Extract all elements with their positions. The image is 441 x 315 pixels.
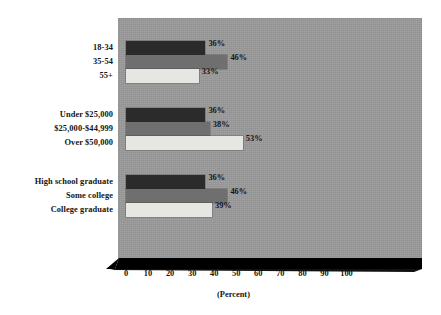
category-label: 35-54 <box>0 57 113 67</box>
bar-value-label: 39% <box>215 199 232 213</box>
bar <box>126 136 243 150</box>
category-label: 55+ <box>0 71 113 81</box>
bar-value-label: 46% <box>230 185 247 199</box>
x-axis-title: (Percent) <box>0 290 441 299</box>
category-label: College graduate <box>0 205 113 215</box>
x-tick-label: 40 <box>210 268 218 280</box>
category-label-column: 18-3435-5455+Under $25,000$25,000-$44,99… <box>0 18 113 262</box>
x-axis-title-text: (Percent) <box>217 290 250 299</box>
bar <box>126 122 210 136</box>
x-tick-label: 60 <box>254 268 262 280</box>
x-tick-label: 0 <box>124 268 128 280</box>
bar-value-label: 36% <box>208 171 225 185</box>
bar <box>126 108 205 122</box>
bar-value-label: 46% <box>230 51 247 65</box>
bar <box>126 189 227 203</box>
category-label: $25,000-$44,999 <box>0 124 113 134</box>
category-label: High school graduate <box>0 177 113 187</box>
x-tick-label: 30 <box>188 268 196 280</box>
x-tick-label: 100 <box>340 268 353 280</box>
x-tick-label: 10 <box>144 268 152 280</box>
bar <box>126 69 199 83</box>
category-label: Under $25,000 <box>0 110 113 120</box>
category-label: Some college <box>0 191 113 201</box>
bar <box>126 175 205 189</box>
chart-figure: 36%46%33%36%38%53%36%46%39% 18-3435-5455… <box>0 0 441 315</box>
category-label: Over $50,000 <box>0 138 113 148</box>
bar-value-label: 53% <box>246 132 263 146</box>
x-tick-label: 80 <box>298 268 306 280</box>
x-tick-label: 70 <box>276 268 284 280</box>
bar <box>126 203 212 217</box>
bar-value-label: 38% <box>213 118 230 132</box>
bars-layer: 36%46%33%36%38%53%36%46%39% <box>118 18 422 262</box>
bar-value-label: 33% <box>202 65 219 79</box>
x-tick-label: 20 <box>166 268 174 280</box>
bar-value-label: 36% <box>208 104 225 118</box>
bar <box>126 41 205 55</box>
x-tick-label: 90 <box>320 268 328 280</box>
plot-panel: 36%46%33%36%38%53%36%46%39% <box>118 18 422 262</box>
bar-value-label: 36% <box>208 37 225 51</box>
x-axis-ticks: 0102030405060708090100 <box>0 268 441 282</box>
category-label: 18-34 <box>0 43 113 53</box>
x-tick-label: 50 <box>232 268 240 280</box>
